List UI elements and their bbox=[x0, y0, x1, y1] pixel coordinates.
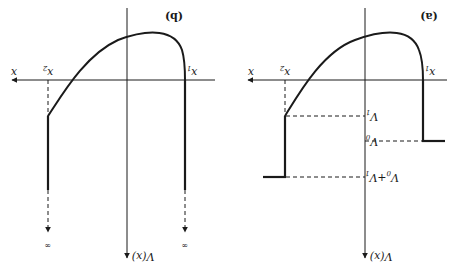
panel-b-x2-label: x2 bbox=[42, 64, 53, 79]
panel-a-x1-label: x1 bbox=[425, 64, 436, 79]
panel-b-x-label: x bbox=[10, 66, 17, 79]
panel-a-v1-label: V1 bbox=[366, 108, 378, 123]
panel-a: (a) x x2 x1 V1 V0 V0+V1 V(x) bbox=[247, 8, 447, 263]
panel-b-infinity-left: ∞ bbox=[45, 241, 52, 250]
panel-b: (b) x x2 x1 ∞ ∞ V(x) bbox=[10, 8, 215, 263]
panel-b-infinity-right: ∞ bbox=[182, 241, 189, 250]
potential-well-diagram: (b) x x2 x1 ∞ ∞ V(x) bbox=[0, 0, 451, 268]
panel-b-x1-label: x1 bbox=[187, 64, 198, 79]
panel-a-potential-curve bbox=[285, 33, 423, 116]
panel-a-vx-label: V(x) bbox=[370, 250, 393, 263]
panel-b-vx-label: V(x) bbox=[132, 250, 155, 263]
panel-a-tag: (a) bbox=[420, 10, 438, 23]
panel-a-x-label: x bbox=[247, 66, 254, 79]
panel-a-x2-label: x2 bbox=[279, 64, 290, 79]
panel-a-v0-label: V0 bbox=[365, 133, 378, 148]
panel-a-v0v1-label: V0+V1 bbox=[365, 169, 399, 184]
panel-b-potential-curve bbox=[48, 33, 185, 116]
panel-b-tag: (b) bbox=[165, 10, 183, 23]
